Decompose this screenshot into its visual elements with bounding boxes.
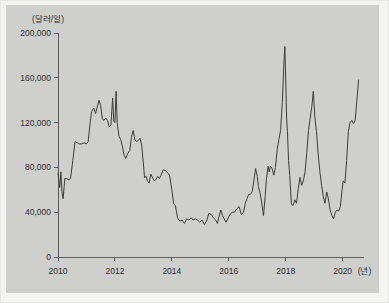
x-tick-label: 2010 [49, 266, 68, 276]
line-chart-plot: 040,00080,000120,000160,000200,000 20102… [6, 5, 379, 293]
x-axis-unit-label: (년) [358, 266, 372, 276]
x-tick-label: 2020 [333, 266, 352, 276]
x-tick-label: 2012 [105, 266, 124, 276]
y-tick-label: 160,000 [20, 73, 51, 83]
data-series-line [58, 46, 359, 224]
y-axis-group: 040,00080,000120,000160,000200,000 [20, 28, 58, 262]
x-tick-labels: 201020122014201620182020 [49, 266, 353, 276]
x-tick-label: 2016 [219, 266, 238, 276]
y-tick-label: 40,000 [25, 207, 51, 217]
y-tick-label: 200,000 [20, 28, 51, 38]
y-tick-label: 80,000 [25, 162, 51, 172]
y-tick-marks [54, 33, 58, 257]
y-tick-label: 0 [46, 252, 51, 262]
x-tick-label: 2018 [276, 266, 295, 276]
x-tick-label: 2014 [162, 266, 181, 276]
x-tick-marks [58, 257, 343, 261]
y-tick-labels: 040,00080,000120,000160,000200,000 [20, 28, 51, 262]
y-tick-label: 120,000 [20, 118, 51, 128]
chart-figure: 040,00080,000120,000160,000200,000 20102… [0, 0, 389, 303]
x-axis-group: 201020122014201620182020 [49, 257, 364, 276]
y-axis-unit-label: (달러/일) [32, 14, 64, 24]
chart-panel: 040,00080,000120,000160,000200,000 20102… [6, 5, 379, 293]
